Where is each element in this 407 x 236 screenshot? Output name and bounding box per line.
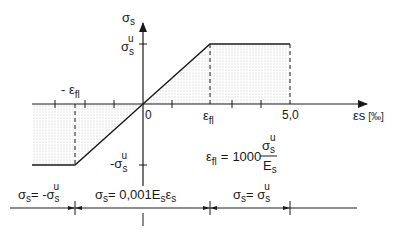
sigma-u-label: σsu bbox=[121, 33, 134, 57]
neg-eps-fl-label: - εfl bbox=[61, 82, 80, 100]
svg-text:εfl=1000: εfl=1000 bbox=[206, 149, 261, 167]
x-axis-label: εs[‰] bbox=[353, 108, 384, 123]
yield-strain-formula: εfl=1000 σsu Es bbox=[206, 132, 277, 175]
zone-label-tension-yield: σs= σsu bbox=[233, 181, 270, 204]
zone-dimension-line bbox=[10, 201, 357, 226]
stress-strain-diagram: σs σsu -σsu 0 - εfl εfl 5,0 εs[‰] εfl=10… bbox=[0, 0, 407, 236]
zone-label-compression-yield: σs= -σsu bbox=[18, 181, 60, 204]
ultimate-strain-label: 5,0 bbox=[282, 108, 299, 122]
shaded-region-positive bbox=[143, 44, 290, 104]
neg-sigma-u-label: -σsu bbox=[110, 150, 127, 174]
zone-label-elastic: σs= 0,001Esεs bbox=[95, 187, 176, 204]
svg-text:Es: Es bbox=[263, 158, 277, 175]
svg-text:σsu: σsu bbox=[262, 132, 276, 155]
eps-fl-label: εfl bbox=[203, 108, 214, 126]
y-axis-label: σs bbox=[122, 10, 135, 27]
origin-label: 0 bbox=[145, 108, 152, 122]
